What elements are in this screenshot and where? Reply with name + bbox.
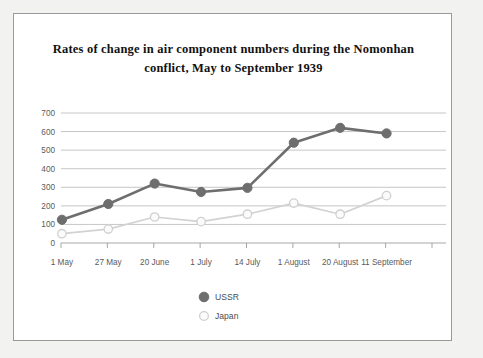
- line-chart: 0100200300400500600700 1 May27 May20 Jun…: [14, 14, 453, 342]
- data-point-japan: [290, 199, 298, 207]
- y-axis-tick-label: 0: [50, 239, 55, 248]
- data-point-ussr: [336, 123, 345, 132]
- data-point-japan: [150, 213, 158, 221]
- x-axis-tick-label: 11 September: [361, 258, 412, 267]
- chart-frame: Rates of change in air component numbers…: [13, 13, 452, 341]
- chart-legend: USSRJapan: [199, 292, 239, 321]
- x-axis-tick-label: 20 August: [322, 258, 359, 267]
- x-axis-tick-label: 1 August: [278, 258, 311, 267]
- data-point-japan: [197, 217, 205, 225]
- data-point-ussr: [150, 179, 159, 188]
- data-point-ussr: [196, 187, 205, 196]
- filled-circle-icon: [199, 292, 209, 302]
- legend-label-japan: Japan: [215, 311, 239, 321]
- data-point-japan: [382, 191, 390, 199]
- hollow-circle-icon: [200, 312, 209, 321]
- data-point-ussr: [243, 183, 252, 192]
- y-axis-tick-label: 700: [41, 109, 55, 118]
- x-axis: [61, 243, 446, 248]
- y-axis-tick-label: 400: [41, 165, 55, 174]
- x-axis-tick-label: 20 June: [140, 258, 170, 267]
- data-point-japan: [104, 225, 112, 233]
- y-axis-tick-label: 600: [41, 128, 55, 137]
- data-point-ussr: [104, 199, 113, 208]
- x-axis-tick-label: 27 May: [95, 258, 123, 267]
- data-point-japan: [58, 230, 66, 238]
- data-point-ussr: [289, 138, 298, 147]
- x-axis-tick-label: 14 July: [234, 258, 261, 267]
- y-axis-tick-label: 200: [41, 202, 55, 211]
- chart-plot-area: 0100200300400500600700 1 May27 May20 Jun…: [14, 14, 453, 342]
- x-axis-tick-labels: 1 May27 May20 June1 July14 July1 August2…: [51, 258, 412, 267]
- y-axis-tick-labels: 0100200300400500600700: [41, 109, 55, 248]
- data-point-japan: [243, 210, 251, 218]
- data-point-ussr: [57, 215, 66, 224]
- data-point-japan: [336, 210, 344, 218]
- x-axis-tick-label: 1 May: [51, 258, 74, 267]
- legend-label-ussr: USSR: [215, 292, 239, 302]
- y-axis-tick-label: 100: [41, 220, 55, 229]
- y-axis-tick-label: 300: [41, 183, 55, 192]
- data-point-ussr: [382, 129, 391, 138]
- series-japan: [58, 191, 391, 237]
- y-axis-tick-label: 500: [41, 146, 55, 155]
- series-ussr: [57, 123, 391, 224]
- x-axis-tick-label: 1 July: [190, 258, 212, 267]
